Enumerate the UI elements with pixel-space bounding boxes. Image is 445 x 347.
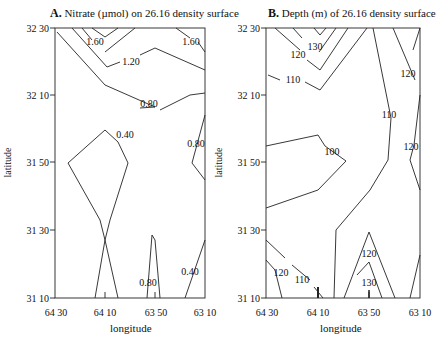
svg-text:31 50: 31 50 [27, 157, 50, 168]
svg-text:31 10: 31 10 [238, 293, 261, 304]
chart-a-ticks [50, 28, 155, 298]
svg-text:63 10: 63 10 [409, 307, 432, 318]
svg-text:120: 120 [362, 248, 377, 259]
chart-a-contours [57, 28, 205, 298]
svg-text:32 30: 32 30 [27, 23, 50, 34]
svg-text:64 10: 64 10 [94, 307, 117, 318]
chart-b-frame [266, 28, 420, 298]
chart-b-ylabel: latitude [213, 148, 224, 178]
svg-text:0.80: 0.80 [140, 98, 158, 109]
svg-text:120: 120 [274, 267, 289, 278]
chart-a-ylabel: latitude [2, 148, 13, 178]
svg-text:100: 100 [325, 146, 340, 157]
svg-text:32 10: 32 10 [27, 90, 50, 101]
svg-text:64 30: 64 30 [45, 307, 68, 318]
svg-text:120: 120 [291, 49, 306, 60]
svg-text:120: 120 [401, 68, 416, 79]
chart-a-frame [55, 28, 205, 298]
svg-text:0.80: 0.80 [139, 277, 157, 288]
svg-text:0.80: 0.80 [187, 138, 205, 149]
chart-b-ticks [261, 28, 369, 298]
svg-text:63 50: 63 50 [145, 307, 168, 318]
chart-b-xlabel: longitude [320, 322, 362, 334]
chart-b-contours [266, 28, 420, 298]
chart-a-xlabel: longitude [110, 322, 152, 334]
svg-text:0.40: 0.40 [116, 129, 134, 140]
svg-text:31 50: 31 50 [238, 157, 261, 168]
chart-a-labels: 1.60 1.60 1.20 0.80 0.40 0.80 0.80 0.40 [86, 36, 205, 288]
svg-text:32 10: 32 10 [238, 90, 261, 101]
svg-text:110: 110 [286, 74, 301, 85]
svg-text:31 30: 31 30 [27, 225, 50, 236]
svg-text:1.60: 1.60 [182, 36, 200, 47]
svg-text:120: 120 [404, 141, 419, 152]
svg-text:130: 130 [362, 277, 377, 288]
tick-labels: 32 30 32 10 31 50 31 30 31 10 32 30 32 1… [27, 23, 432, 318]
svg-text:110: 110 [382, 109, 397, 120]
chart-b-labels: 130 120 110 120 110 120 100 120 120 110 … [274, 41, 419, 288]
svg-text:32 30: 32 30 [238, 23, 261, 34]
svg-text:64 10: 64 10 [307, 307, 330, 318]
svg-text:1.20: 1.20 [122, 56, 140, 67]
svg-text:64 30: 64 30 [256, 307, 279, 318]
svg-text:110: 110 [295, 274, 310, 285]
svg-text:63 50: 63 50 [358, 307, 381, 318]
svg-text:31 10: 31 10 [27, 293, 50, 304]
svg-text:63 10: 63 10 [194, 307, 217, 318]
svg-text:1.60: 1.60 [86, 36, 104, 47]
svg-text:0.40: 0.40 [181, 266, 199, 277]
svg-text:130: 130 [308, 41, 323, 52]
svg-text:31 30: 31 30 [238, 225, 261, 236]
